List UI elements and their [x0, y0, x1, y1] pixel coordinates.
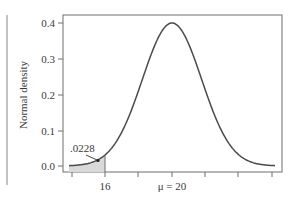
y-axis-title: Normal density [17, 60, 29, 129]
y-tick-label: 0.3 [41, 53, 55, 65]
tail-area-label: .0228 [70, 142, 95, 154]
x-tick-label-16: 16 [100, 180, 112, 192]
y-tick-label: 0.1 [41, 125, 55, 137]
annotation-arrowhead [96, 159, 99, 162]
x-axis [72, 172, 272, 177]
x-tick-label-mean: μ = 20 [158, 180, 187, 192]
y-axis [58, 23, 63, 166]
density-curve [69, 23, 275, 166]
y-tick-label: 0.4 [41, 17, 55, 29]
y-tick-label: 0.2 [41, 89, 55, 101]
plot-frame [63, 15, 282, 172]
normal-density-chart: 0.0 0.1 0.2 0.3 0.4 16 μ = 20 Normal den… [0, 0, 296, 200]
y-tick-label: 0.0 [41, 160, 55, 172]
annotation-arrow [86, 155, 97, 160]
